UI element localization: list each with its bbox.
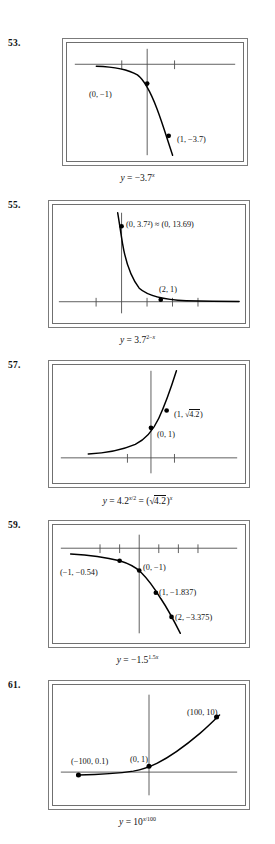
problem-61: 61. (100, 10) bbox=[0, 680, 275, 844]
equation-57: y = 4.2x/2 = (√4.2)x bbox=[0, 495, 275, 506]
problem-53: 53. bbox=[0, 38, 275, 198]
graph-59-svg bbox=[53, 525, 245, 643]
data-point-2-1 bbox=[158, 297, 163, 302]
figure-frame-55: (0, 3.7²) ≈ (0, 13.69) (2, 1) bbox=[48, 200, 250, 328]
figure-inner-frame-53: (0, −1) (1, −3.7) bbox=[66, 42, 244, 162]
curve-57 bbox=[88, 371, 176, 454]
problem-55: 55. bbox=[0, 200, 275, 360]
data-point-0-1 bbox=[149, 426, 154, 431]
problem-59: 59. bbox=[0, 520, 275, 680]
point-label-0-1: (0, 1) bbox=[130, 755, 148, 764]
equation-53-text: y = −3.7x bbox=[120, 173, 154, 183]
equation-61: y = 10x/100 bbox=[0, 817, 275, 827]
figure-frame-59: (−1, −0.54) (0, −1) (1, −1.837) (2, −3.3… bbox=[48, 520, 250, 648]
point-label-100-10: (100, 10) bbox=[187, 708, 217, 717]
point-label-0-13.69: (0, 3.7²) ≈ (0, 13.69) bbox=[126, 220, 194, 229]
problem-number-61: 61. bbox=[8, 680, 20, 690]
point-label-0-neg1: (0, −1) bbox=[143, 563, 166, 572]
data-point-1-neg1.837 bbox=[154, 590, 159, 595]
point-label-1-sqrt4.2: (1, √4.2) bbox=[174, 409, 203, 419]
point-label-0-1: (0, 1) bbox=[157, 430, 175, 439]
graph-57: (1, √4.2) (0, 1) bbox=[53, 365, 245, 483]
graph-55: (0, 3.7²) ≈ (0, 13.69) (2, 1) bbox=[53, 205, 245, 323]
point-label-1-neg1.837: (1, −1.837) bbox=[159, 588, 196, 597]
figure-frame-53: (0, −1) (1, −3.7) bbox=[62, 38, 248, 166]
equation-57-text: y = 4.2x/2 = (√4.2)x bbox=[103, 496, 173, 506]
data-point-1-sqrt4.2 bbox=[164, 408, 169, 413]
figure-frame-61: (100, 10) (0, 1) (−100, 0.1) bbox=[48, 680, 250, 810]
point-label-2-neg3.375: (2, −3.375) bbox=[175, 613, 212, 622]
figure-frame-57: (1, √4.2) (0, 1) bbox=[48, 360, 250, 488]
problem-number-57: 57. bbox=[8, 360, 20, 370]
problem-number-55: 55. bbox=[8, 200, 20, 210]
equation-53: y = −3.7x bbox=[0, 173, 275, 183]
data-point-2-neg3.375 bbox=[169, 615, 174, 620]
point-label-2-1: (2, 1) bbox=[159, 285, 177, 294]
figure-inner-frame-59: (−1, −0.54) (0, −1) (1, −1.837) (2, −3.3… bbox=[52, 524, 246, 644]
graph-61: (100, 10) (0, 1) (−100, 0.1) bbox=[53, 685, 245, 805]
point-label-0-neg1: (0, −1) bbox=[89, 90, 112, 99]
data-point-0-13.69 bbox=[119, 224, 124, 229]
graph-59: (−1, −0.54) (0, −1) (1, −1.837) (2, −3.3… bbox=[53, 525, 245, 643]
equation-61-text: y = 10x/100 bbox=[119, 817, 156, 827]
data-point-0-neg1 bbox=[145, 81, 150, 86]
equation-55: y = 3.72−x bbox=[0, 335, 275, 345]
figure-inner-frame-57: (1, √4.2) (0, 1) bbox=[52, 364, 246, 484]
equation-55-text: y = 3.72−x bbox=[120, 335, 155, 345]
figure-inner-frame-61: (100, 10) (0, 1) (−100, 0.1) bbox=[52, 684, 246, 806]
point-label-neg1-neg0.54: (−1, −0.54) bbox=[60, 568, 98, 577]
graph-53: (0, −1) (1, −3.7) bbox=[67, 43, 243, 161]
data-point-0-neg1 bbox=[137, 568, 142, 573]
equation-59: y = −1.51.5x bbox=[0, 655, 275, 665]
answers-figure-page: 53. bbox=[0, 0, 275, 844]
figure-inner-frame-55: (0, 3.7²) ≈ (0, 13.69) (2, 1) bbox=[52, 204, 246, 324]
point-label-neg100-0.1: (−100, 0.1) bbox=[71, 757, 108, 766]
graph-61-svg bbox=[53, 685, 245, 805]
problem-number-53: 53. bbox=[8, 38, 20, 48]
problem-number-59: 59. bbox=[8, 520, 20, 530]
data-point-neg1-neg0.54 bbox=[117, 558, 122, 563]
problem-57: 57. bbox=[0, 360, 275, 520]
graph-57-svg bbox=[53, 365, 245, 483]
data-point-1-neg3.7 bbox=[166, 134, 171, 139]
equation-59-text: y = −1.51.5x bbox=[117, 655, 159, 665]
point-label-1-neg3.7: (1, −3.7) bbox=[177, 135, 206, 144]
graph-53-svg bbox=[67, 43, 243, 161]
data-point-0-1 bbox=[146, 764, 151, 769]
data-point-neg100-0.1 bbox=[76, 772, 81, 777]
curve-53 bbox=[96, 66, 172, 155]
